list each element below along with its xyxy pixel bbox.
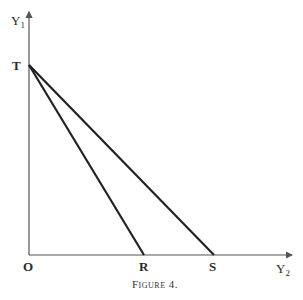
y1-axis-label: Y1 — [11, 13, 25, 30]
y2-axis-label: Y2 — [276, 261, 290, 278]
line-t-r — [29, 65, 144, 255]
point-label-s: S — [209, 259, 216, 274]
point-label-origin: O — [23, 259, 33, 274]
figure-caption: Figure 4. — [132, 278, 178, 290]
figure-diagram: Y1 Y2 T O R S Figure 4. — [0, 0, 303, 300]
line-t-s — [29, 65, 214, 255]
point-label-t: T — [12, 58, 21, 73]
point-label-r: R — [139, 259, 149, 274]
